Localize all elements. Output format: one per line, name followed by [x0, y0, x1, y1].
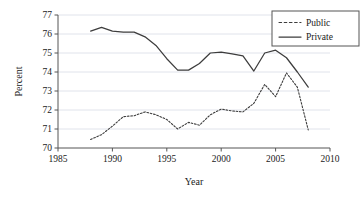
legend-label-public[interactable]: Public — [306, 18, 330, 28]
y-axis-tick-label: 74 — [43, 67, 53, 77]
x-axis-title: Year — [185, 176, 204, 187]
legend-label-private[interactable]: Private — [306, 32, 333, 42]
legend[interactable]: PublicPrivate — [272, 11, 359, 46]
x-axis-tick-label: 2000 — [212, 154, 231, 164]
chart-canvas: 7071727374757677198519901995200020052010… — [0, 0, 363, 197]
y-axis-tick-label: 76 — [43, 29, 53, 39]
series-line-public — [91, 73, 309, 140]
x-axis-tick-label: 1995 — [157, 154, 176, 164]
y-axis-tick-label: 71 — [43, 124, 53, 134]
y-axis-title: Percent — [13, 66, 24, 96]
line-chart: 7071727374757677198519901995200020052010… — [0, 0, 363, 197]
y-axis-tick-label: 72 — [43, 105, 53, 115]
y-axis-tick-label: 77 — [43, 10, 53, 20]
x-axis-tick-label: 1990 — [103, 154, 122, 164]
x-axis-tick-label: 2005 — [266, 154, 285, 164]
x-axis-tick-label: 2010 — [321, 154, 340, 164]
x-axis-tick-label: 1985 — [49, 154, 68, 164]
y-axis-tick-label: 75 — [43, 48, 53, 58]
y-axis-tick-label: 70 — [43, 143, 53, 153]
y-axis-tick-label: 73 — [43, 86, 53, 96]
